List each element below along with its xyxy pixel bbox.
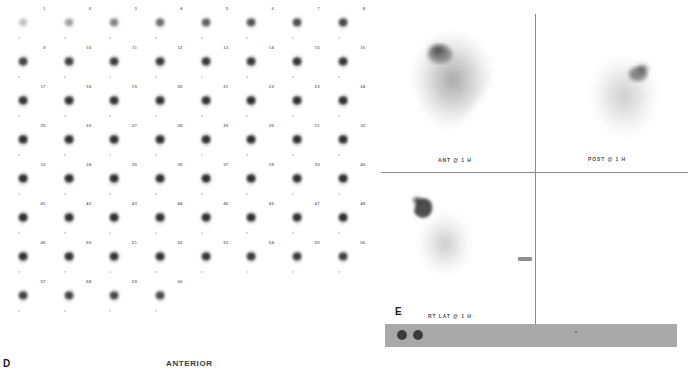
dynamic-frame[interactable]: 5	[191, 6, 237, 45]
dynamic-frame[interactable]: 53	[191, 240, 237, 279]
dynamic-frame[interactable]: 11	[99, 45, 145, 84]
dynamic-frame[interactable]: 49	[8, 240, 54, 279]
dynamic-frame[interactable]: 47	[282, 201, 328, 240]
frame-marker-dot	[64, 37, 66, 39]
dynamic-frame[interactable]: 56	[328, 240, 374, 279]
dynamic-frame[interactable]: 48	[328, 201, 374, 240]
dynamic-frame[interactable]: 3	[99, 6, 145, 45]
dynamic-frame[interactable]: 13	[191, 45, 237, 84]
dynamic-frame[interactable]: 34	[54, 162, 100, 201]
dynamic-frame[interactable]: 36	[145, 162, 191, 201]
frame-number-label: 5	[226, 6, 229, 11]
frame-marker-dot	[18, 37, 20, 39]
dynamic-frame[interactable]: 26	[54, 123, 100, 162]
dynamic-frame[interactable]: 12	[145, 45, 191, 84]
dynamic-frame[interactable]: 6	[236, 6, 282, 45]
dynamic-frame[interactable]: 59	[99, 279, 145, 318]
dynamic-frame[interactable]: 37	[191, 162, 237, 201]
dynamic-frame[interactable]: 39	[282, 162, 328, 201]
frame-scintigram	[149, 208, 177, 234]
frame-number-label: 17	[40, 84, 45, 89]
frame-scintigram	[12, 130, 40, 156]
dynamic-frame[interactable]: 2	[54, 6, 100, 45]
dynamic-frame[interactable]: 54	[236, 240, 282, 279]
dynamic-frame[interactable]: 27	[99, 123, 145, 162]
frame-scintigram	[58, 247, 86, 273]
frame-marker-dot	[64, 193, 66, 195]
frame-number-label: 47	[315, 201, 320, 206]
frame-scintigram	[240, 247, 268, 273]
frame-marker-dot	[155, 310, 157, 312]
frame-number-label: 11	[132, 45, 137, 50]
dynamic-frame[interactable]: 51	[99, 240, 145, 279]
frame-marker-dot	[292, 37, 294, 39]
dynamic-frame[interactable]: 28	[145, 123, 191, 162]
frame-number-label: 27	[132, 123, 137, 128]
frame-marker-dot	[338, 232, 340, 234]
frame-scintigram	[332, 52, 360, 78]
dynamic-frame[interactable]: 44	[145, 201, 191, 240]
dynamic-frame[interactable]: 29	[191, 123, 237, 162]
dynamic-frame[interactable]: 58	[54, 279, 100, 318]
dynamic-frame[interactable]: 9	[8, 45, 54, 84]
frame-marker-dot	[18, 310, 20, 312]
dynamic-frame[interactable]: 50	[54, 240, 100, 279]
dynamic-frame[interactable]: 14	[236, 45, 282, 84]
dynamic-frame[interactable]: 15	[282, 45, 328, 84]
frame-scintigram	[58, 13, 86, 39]
dynamic-frame[interactable]: 19	[99, 84, 145, 123]
dynamic-frame[interactable]: 35	[99, 162, 145, 201]
dynamic-frame[interactable]: 7	[282, 6, 328, 45]
dynamic-frame[interactable]: 31	[282, 123, 328, 162]
static-views-panel: ANT @ 1 H	[380, 0, 689, 371]
posterior-view-label: POST @ 1 H	[588, 156, 626, 162]
frame-number-label: 43	[132, 201, 137, 206]
frame-number-label: 25	[40, 123, 45, 128]
frame-marker-dot	[201, 271, 203, 273]
dynamic-frame[interactable]: 4	[145, 6, 191, 45]
frame-number-label: 3	[134, 6, 137, 11]
dynamic-frame[interactable]: 10	[54, 45, 100, 84]
dynamic-frame[interactable]: 23	[282, 84, 328, 123]
dynamic-frame[interactable]: 16	[328, 45, 374, 84]
frame-scintigram	[195, 52, 223, 78]
dynamic-frame[interactable]: 33	[8, 162, 54, 201]
dynamic-frame[interactable]: 38	[236, 162, 282, 201]
dynamic-frame[interactable]: 40	[328, 162, 374, 201]
dynamic-frame[interactable]: 22	[236, 84, 282, 123]
dynamic-frame[interactable]: 17	[8, 84, 54, 123]
frame-number-label: 29	[223, 123, 228, 128]
frame-number-label: 20	[177, 84, 182, 89]
dynamic-frame[interactable]: 55	[282, 240, 328, 279]
dynamic-frame[interactable]: 52	[145, 240, 191, 279]
scale-marker-2	[413, 330, 423, 340]
dynamic-frame[interactable]: 45	[191, 201, 237, 240]
dynamic-frame[interactable]: 1	[8, 6, 54, 45]
dynamic-sequence-panel: 1234567891011121314151617181920212223242…	[0, 0, 380, 371]
dynamic-frame[interactable]: 43	[99, 201, 145, 240]
dynamic-frame[interactable]: 24	[328, 84, 374, 123]
dynamic-frame[interactable]: 41	[8, 201, 54, 240]
frame-scintigram	[240, 130, 268, 156]
dynamic-frame[interactable]: 8	[328, 6, 374, 45]
dynamic-frame[interactable]: 21	[191, 84, 237, 123]
dynamic-frame[interactable]: 25	[8, 123, 54, 162]
dynamic-frame[interactable]: 20	[145, 84, 191, 123]
frame-number-label: 30	[269, 123, 274, 128]
frame-number-label: 45	[223, 201, 228, 206]
dynamic-frame[interactable]: 18	[54, 84, 100, 123]
frame-number-label: 41	[40, 201, 45, 206]
frame-number-label: 37	[223, 162, 228, 167]
frame-scintigram	[58, 286, 86, 312]
dynamic-frame[interactable]: 46	[236, 201, 282, 240]
dynamic-frame[interactable]: 32	[328, 123, 374, 162]
frame-number-label: 22	[269, 84, 274, 89]
frame-number-label: 54	[269, 240, 274, 245]
dynamic-frame[interactable]: 30	[236, 123, 282, 162]
dynamic-frame[interactable]: 42	[54, 201, 100, 240]
dynamic-frame[interactable]: 60	[145, 279, 191, 318]
frame-marker-dot	[155, 76, 157, 78]
dynamic-frame[interactable]: 57	[8, 279, 54, 318]
frame-number-label: 1	[43, 6, 46, 11]
frame-scintigram	[240, 208, 268, 234]
